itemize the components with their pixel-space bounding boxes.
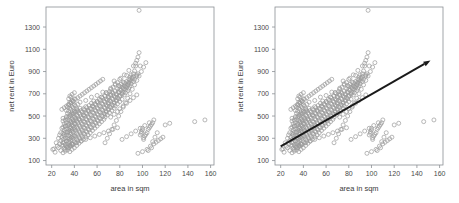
data-point [146, 149, 150, 153]
x-tick-label: 100 [137, 170, 149, 177]
data-point [324, 93, 328, 97]
data-point [97, 132, 101, 136]
data-point [153, 135, 157, 139]
data-point [163, 123, 167, 127]
data-point [134, 129, 138, 133]
data-point [155, 131, 159, 135]
data-point [137, 8, 141, 12]
data-point [109, 115, 113, 119]
data-point [125, 135, 129, 139]
data-point [88, 136, 92, 140]
data-point [116, 126, 120, 130]
data-points [51, 8, 207, 155]
data-point [331, 131, 335, 135]
x-tick-label: 80 [116, 170, 124, 177]
data-point [112, 123, 116, 127]
data-point [105, 136, 109, 140]
plot-area-right: 2040608010012014016010030050070090011001… [229, 0, 458, 203]
data-point [366, 51, 370, 55]
data-point [128, 98, 132, 102]
data-point [372, 124, 376, 128]
data-point [432, 118, 436, 122]
y-tick-label: 300 [28, 135, 40, 142]
data-point [137, 51, 141, 55]
y-tick-label: 900 [257, 68, 269, 75]
data-point [102, 131, 106, 135]
panel-right: 2040608010012014016010030050070090011001… [229, 0, 458, 203]
data-point [345, 126, 349, 130]
x-tick-label: 120 [388, 170, 400, 177]
data-point [118, 77, 122, 81]
data-point [317, 136, 321, 140]
data-point [334, 136, 338, 140]
data-point [341, 123, 345, 127]
x-tick-label: 100 [366, 170, 378, 177]
data-point [145, 147, 149, 151]
data-point [375, 149, 379, 153]
data-point [128, 92, 132, 96]
x-tick-label: 160 [434, 170, 446, 177]
data-point [168, 121, 172, 125]
y-tick-label: 500 [28, 113, 40, 120]
data-point [343, 118, 347, 122]
data-point [365, 151, 369, 155]
data-point [397, 121, 401, 125]
y-tick-label: 500 [257, 113, 269, 120]
data-point [368, 70, 372, 74]
x-tick-label: 40 [299, 170, 307, 177]
data-point [127, 68, 131, 72]
x-tick-label: 120 [159, 170, 171, 177]
data-point [89, 95, 93, 99]
data-point [131, 96, 135, 100]
y-tick-label: 700 [28, 90, 40, 97]
x-tick-label: 40 [70, 170, 78, 177]
y-tick-label: 900 [28, 68, 40, 75]
y-tick-label: 1100 [25, 46, 40, 53]
data-point [322, 134, 326, 138]
x-tick-label: 80 [345, 170, 353, 177]
data-point [119, 76, 123, 80]
data-point [193, 120, 197, 124]
data-point [349, 137, 353, 141]
data-point [348, 76, 352, 80]
y-tick-label: 1300 [24, 24, 40, 31]
x-tick-label: 140 [411, 170, 423, 177]
data-point [78, 100, 82, 104]
data-point [307, 100, 311, 104]
data-point [382, 135, 386, 139]
y-axis-title: net rent in Euro [236, 60, 245, 111]
data-point [373, 61, 377, 65]
data-point [144, 61, 148, 65]
data-point [374, 147, 378, 151]
x-axis-title: area in sqm [339, 184, 378, 193]
regression-line-arrowhead [423, 60, 430, 66]
x-tick-label: 20 [48, 170, 56, 177]
x-tick-label: 60 [322, 170, 330, 177]
data-point [357, 92, 361, 96]
data-point [332, 141, 336, 145]
y-axis-title: net rent in Euro [7, 60, 16, 111]
x-tick-label: 140 [182, 170, 194, 177]
data-point [103, 141, 107, 145]
x-tick-label: 60 [93, 170, 101, 177]
data-point [120, 137, 124, 141]
x-axis-title: area in sqm [110, 184, 149, 193]
panel-left: 2040608010012014016010030050070090011001… [0, 0, 229, 203]
y-tick-label: 700 [257, 90, 269, 97]
plot-area-left: 2040608010012014016010030050070090011001… [0, 0, 229, 203]
data-point [140, 150, 144, 154]
data-point [95, 93, 99, 97]
data-point [326, 132, 330, 136]
data-point [93, 134, 97, 138]
data-point [126, 96, 130, 100]
data-point [318, 95, 322, 99]
x-tick-label: 20 [277, 170, 285, 177]
x-tick-label: 160 [205, 170, 217, 177]
data-point [114, 118, 118, 122]
data-point [363, 129, 367, 133]
data-point [341, 112, 345, 116]
data-point [346, 114, 350, 118]
data-point [117, 114, 121, 118]
data-point [84, 98, 88, 102]
data-point [135, 93, 139, 97]
